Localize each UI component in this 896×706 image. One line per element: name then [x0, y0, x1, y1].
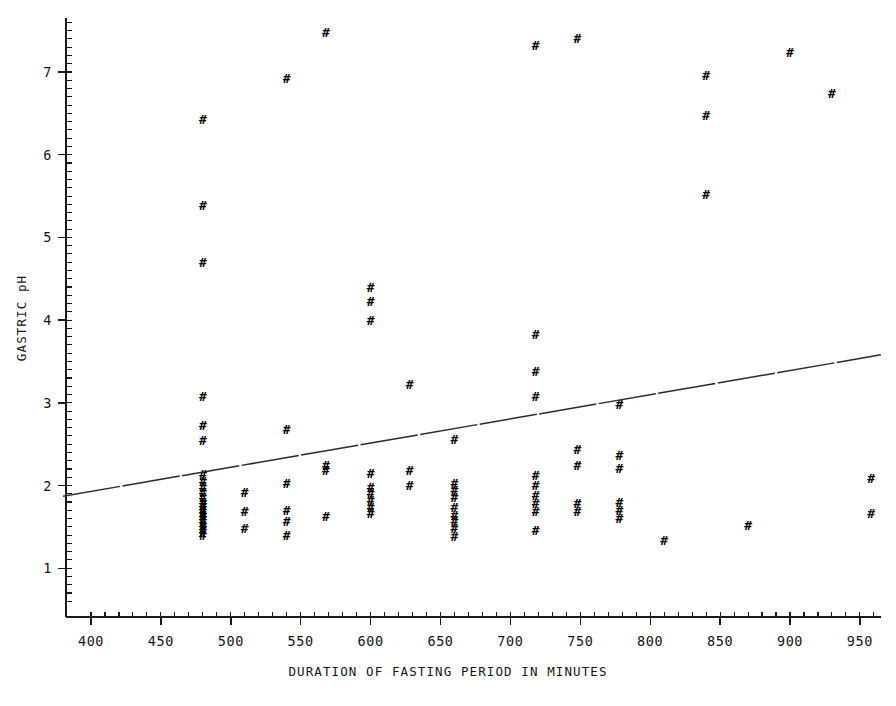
hash-marker: #: [241, 521, 249, 536]
axes: [66, 18, 881, 617]
x-tick-label: 700: [497, 633, 523, 649]
hash-marker: #: [283, 528, 291, 543]
y-tick-label: 4: [43, 312, 52, 328]
hash-marker: #: [744, 518, 752, 533]
hash-marker: #: [283, 71, 291, 86]
hash-marker: #: [867, 506, 875, 521]
hash-marker: #: [574, 504, 582, 519]
hash-marker: #: [867, 471, 875, 486]
trend-line: [63, 355, 881, 496]
x-axis-minor-ticks: [91, 612, 874, 618]
y-axis-major-ticks: [58, 72, 66, 568]
plot-canvas: 400450500550600650700750800850900950 123…: [0, 0, 896, 706]
hash-marker: #: [532, 523, 540, 538]
hash-marker: #: [574, 31, 582, 46]
hash-marker: #: [406, 478, 414, 493]
hash-marker: #: [406, 463, 414, 478]
hash-marker: #: [322, 25, 330, 40]
hash-marker: #: [199, 112, 207, 127]
hash-marker: #: [406, 377, 414, 392]
y-axis-minor-ticks: [66, 22, 72, 601]
hash-marker: #: [532, 389, 540, 404]
hash-marker: #: [702, 108, 710, 123]
x-tick-label: 500: [218, 633, 244, 649]
hash-marker: #: [199, 389, 207, 404]
x-tick-label: 550: [288, 633, 314, 649]
hash-marker: #: [241, 504, 249, 519]
x-tick-label: 900: [777, 633, 803, 649]
hash-marker: #: [616, 511, 624, 526]
y-tick-label: 2: [43, 478, 52, 494]
hash-marker: #: [322, 509, 330, 524]
hash-marker: #: [199, 528, 207, 543]
hash-marker: #: [367, 280, 375, 295]
x-axis-tick-labels: 400450500550600650700750800850900950: [78, 633, 873, 649]
hash-marker: #: [367, 506, 375, 521]
hash-marker: #: [199, 198, 207, 213]
hash-marker: #: [451, 529, 459, 544]
hash-marker: #: [367, 294, 375, 309]
hash-marker: #: [199, 418, 207, 433]
hash-marker: #: [283, 422, 291, 437]
hash-marker: #: [451, 432, 459, 447]
y-tick-label: 1: [43, 560, 52, 576]
hash-marker: #: [532, 364, 540, 379]
y-axis-tick-labels: 1234567: [43, 64, 52, 576]
hash-marker: #: [322, 463, 330, 478]
hash-marker: #: [828, 86, 836, 101]
data-point-layer: ########################################…: [199, 25, 875, 548]
x-axis-major-ticks: [91, 617, 860, 625]
hash-marker: #: [616, 461, 624, 476]
hash-marker: #: [532, 504, 540, 519]
scatter-plot-figure: 400450500550600650700750800850900950 123…: [0, 0, 896, 706]
hash-marker: #: [283, 476, 291, 491]
x-axis-title: DURATION OF FASTING PERIOD IN MINUTES: [288, 664, 607, 679]
hash-marker: #: [199, 255, 207, 270]
y-tick-label: 5: [43, 229, 52, 245]
y-axis-title: GASTRIC pH: [14, 275, 29, 361]
x-tick-label: 950: [847, 633, 873, 649]
hash-marker: #: [786, 45, 794, 60]
hash-marker: #: [702, 68, 710, 83]
hash-marker: #: [241, 485, 249, 500]
x-tick-label: 850: [707, 633, 733, 649]
x-tick-label: 400: [78, 633, 104, 649]
hash-marker: #: [574, 458, 582, 473]
hash-marker: #: [660, 533, 668, 548]
x-tick-label: 600: [358, 633, 384, 649]
x-tick-label: 800: [637, 633, 663, 649]
hash-marker: #: [532, 38, 540, 53]
hash-marker: #: [574, 442, 582, 457]
x-tick-label: 650: [427, 633, 453, 649]
y-tick-label: 6: [43, 147, 52, 163]
x-tick-label: 450: [148, 633, 174, 649]
y-tick-label: 3: [43, 395, 52, 411]
hash-marker: #: [367, 313, 375, 328]
x-tick-label: 750: [567, 633, 593, 649]
y-tick-label: 7: [43, 64, 52, 80]
hash-marker: #: [702, 187, 710, 202]
hash-marker: #: [199, 433, 207, 448]
hash-marker: #: [532, 327, 540, 342]
